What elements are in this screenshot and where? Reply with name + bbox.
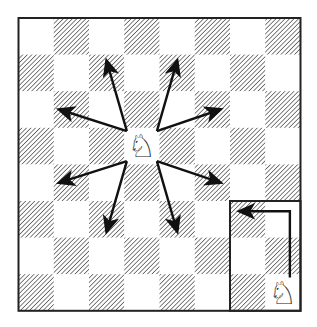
square-g3 bbox=[230, 201, 266, 238]
square-c1 bbox=[89, 274, 125, 311]
square-f6 bbox=[195, 91, 231, 128]
square-a8 bbox=[19, 18, 55, 55]
square-f2 bbox=[195, 238, 231, 275]
board-squares bbox=[19, 18, 301, 311]
square-g2 bbox=[230, 238, 266, 275]
square-b8 bbox=[54, 18, 90, 55]
center-knight-icon: ♘ bbox=[128, 127, 157, 165]
square-b7 bbox=[54, 55, 90, 92]
square-h8 bbox=[265, 18, 301, 55]
square-g6 bbox=[230, 91, 266, 128]
square-c2 bbox=[89, 238, 125, 275]
square-g5 bbox=[230, 128, 266, 165]
square-d3 bbox=[124, 201, 160, 238]
square-c6 bbox=[89, 91, 125, 128]
square-d1 bbox=[124, 274, 160, 311]
square-b5 bbox=[54, 128, 90, 165]
square-a4 bbox=[19, 164, 55, 201]
square-a2 bbox=[19, 238, 55, 275]
square-f3 bbox=[195, 201, 231, 238]
square-f5 bbox=[195, 128, 231, 165]
square-e3 bbox=[160, 201, 196, 238]
square-g1 bbox=[230, 274, 266, 311]
square-a7 bbox=[19, 55, 55, 92]
square-b1 bbox=[54, 274, 90, 311]
square-a5 bbox=[19, 128, 55, 165]
square-d7 bbox=[124, 55, 160, 92]
square-c3 bbox=[89, 201, 125, 238]
square-h5 bbox=[265, 128, 301, 165]
square-h4 bbox=[265, 164, 301, 201]
square-a1 bbox=[19, 274, 55, 311]
square-e7 bbox=[160, 55, 196, 92]
square-f7 bbox=[195, 55, 231, 92]
square-a3 bbox=[19, 201, 55, 238]
square-e4 bbox=[160, 164, 196, 201]
square-g7 bbox=[230, 55, 266, 92]
square-b4 bbox=[54, 164, 90, 201]
square-e1 bbox=[160, 274, 196, 311]
square-f4 bbox=[195, 164, 231, 201]
square-d2 bbox=[124, 238, 160, 275]
square-c5 bbox=[89, 128, 125, 165]
square-c4 bbox=[89, 164, 125, 201]
square-f1 bbox=[195, 274, 231, 311]
square-f8 bbox=[195, 18, 231, 55]
square-b2 bbox=[54, 238, 90, 275]
square-d4 bbox=[124, 164, 160, 201]
square-d6 bbox=[124, 91, 160, 128]
knight-moves-diagram: ♘♘ bbox=[0, 0, 317, 327]
square-a6 bbox=[19, 91, 55, 128]
square-d8 bbox=[124, 18, 160, 55]
square-e5 bbox=[160, 128, 196, 165]
square-h2 bbox=[265, 238, 301, 275]
square-e2 bbox=[160, 238, 196, 275]
square-b6 bbox=[54, 91, 90, 128]
square-h7 bbox=[265, 55, 301, 92]
square-c8 bbox=[89, 18, 125, 55]
square-h6 bbox=[265, 91, 301, 128]
corner-knight-icon: ♘ bbox=[269, 274, 298, 312]
square-b3 bbox=[54, 201, 90, 238]
square-g4 bbox=[230, 164, 266, 201]
square-e8 bbox=[160, 18, 196, 55]
square-e6 bbox=[160, 91, 196, 128]
square-h3 bbox=[265, 201, 301, 238]
square-c7 bbox=[89, 55, 125, 92]
square-g8 bbox=[230, 18, 266, 55]
